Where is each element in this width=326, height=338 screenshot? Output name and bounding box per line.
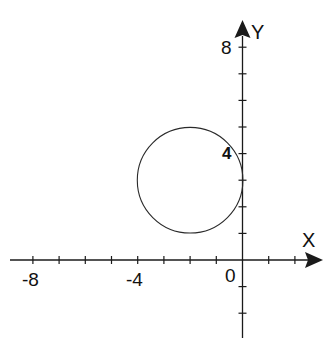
x-tick-label-zero: 0	[225, 265, 236, 286]
x-tick-label-neg4: -4	[126, 269, 143, 290]
y-tick-label-4: 4	[222, 144, 232, 163]
x-axis	[10, 252, 323, 268]
y-axis-arrow-icon	[235, 20, 251, 38]
y-axis-label: Y	[251, 21, 264, 43]
y-tick-label-8: 8	[221, 37, 232, 58]
x-tick-label-neg8: -8	[22, 269, 39, 290]
x-axis-label: X	[302, 229, 315, 251]
coordinate-plane: X Y -8 -4 0 8 4	[0, 0, 326, 338]
